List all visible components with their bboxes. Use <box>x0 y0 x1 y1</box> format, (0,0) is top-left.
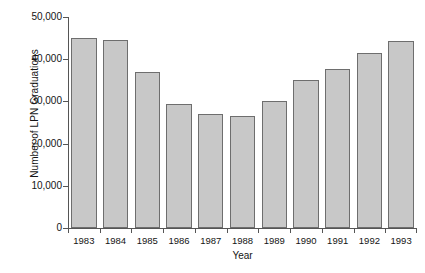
x-axis-tick-label: 1993 <box>391 235 412 246</box>
plot-area: 1983198419851986198719881989199019911992… <box>68 17 417 228</box>
bar-slot <box>293 17 318 228</box>
x-axis-tick <box>385 229 386 233</box>
x-axis-tick <box>195 229 196 233</box>
x-axis-tick-label: 1983 <box>73 235 94 246</box>
x-axis-tick-labels: 1983198419851986198719881989199019911992… <box>68 235 417 249</box>
bar-1992 <box>357 53 382 228</box>
bar-slot <box>388 17 413 228</box>
bar-slot <box>198 17 223 228</box>
x-axis-tick-label: 1987 <box>200 235 221 246</box>
bar-1984 <box>103 40 128 228</box>
x-axis-tick <box>354 229 355 233</box>
bar-1987 <box>198 114 223 228</box>
x-axis-tick-label: 1991 <box>327 235 348 246</box>
x-axis-tick-label: 1988 <box>232 235 253 246</box>
x-axis-tick-label: 1990 <box>295 235 316 246</box>
x-axis-tick <box>68 229 69 233</box>
bar-1993 <box>388 41 413 228</box>
x-axis-tick-label: 1985 <box>137 235 158 246</box>
y-axis-tick-labels: 010,00020,00030,00040,00050,000 <box>8 17 62 228</box>
x-axis-tick-label: 1992 <box>359 235 380 246</box>
x-axis-tick <box>163 229 164 233</box>
x-axis-tick <box>416 229 417 233</box>
y-axis-tick-label: 50,000 <box>31 12 62 22</box>
bar-1988 <box>230 116 255 228</box>
y-axis-tick-label: 40,000 <box>31 54 62 64</box>
bar-1991 <box>325 69 350 228</box>
bar-1985 <box>135 72 160 228</box>
x-axis-tick <box>290 229 291 233</box>
y-axis-tick-label: 30,000 <box>31 96 62 106</box>
bar-1989 <box>262 101 287 228</box>
bar-slot <box>262 17 287 228</box>
x-axis-tick <box>322 229 323 233</box>
bar-slot <box>325 17 350 228</box>
y-axis-tick-label: 20,000 <box>31 139 62 149</box>
bar-slot <box>166 17 191 228</box>
x-axis-ticks <box>68 229 417 234</box>
bar-chart: Number of LPN Graduations 010,00020,0003… <box>0 0 425 273</box>
bar-slot <box>357 17 382 228</box>
x-axis-tick-label: 1986 <box>168 235 189 246</box>
x-axis-tick-label: 1984 <box>105 235 126 246</box>
x-axis-tick <box>131 229 132 233</box>
bar-1986 <box>166 104 191 228</box>
x-axis-tick-label: 1989 <box>264 235 285 246</box>
bar-1990 <box>293 80 318 228</box>
bar-1983 <box>71 38 96 228</box>
x-axis-tick <box>100 229 101 233</box>
y-axis-tick-label: 0 <box>56 223 62 233</box>
y-axis-tick-label: 10,000 <box>31 181 62 191</box>
bar-slot <box>230 17 255 228</box>
x-axis-title: Year <box>68 250 417 261</box>
x-axis-tick <box>227 229 228 233</box>
bar-slot <box>135 17 160 228</box>
x-axis-tick <box>258 229 259 233</box>
bar-slot <box>103 17 128 228</box>
bar-series <box>68 17 417 228</box>
bar-slot <box>71 17 96 228</box>
